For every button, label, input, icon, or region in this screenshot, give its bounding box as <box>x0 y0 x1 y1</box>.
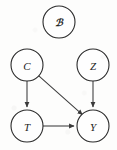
node-c-label: C <box>23 60 31 72</box>
node-b-label: ℬ <box>55 17 64 28</box>
node-t: T <box>11 110 43 142</box>
dag-canvas: ℬ C Z T Y <box>0 0 117 150</box>
node-c: C <box>11 49 43 81</box>
node-b: ℬ <box>43 6 75 38</box>
edge-c-to-y <box>39 76 83 115</box>
node-z: Z <box>77 49 109 81</box>
node-y: Y <box>77 110 109 142</box>
node-z-label: Z <box>90 60 97 72</box>
node-t-label: T <box>24 121 31 133</box>
node-layer: ℬ C Z T Y <box>11 6 109 142</box>
causal-dag-figure: ℬ C Z T Y <box>0 0 117 150</box>
